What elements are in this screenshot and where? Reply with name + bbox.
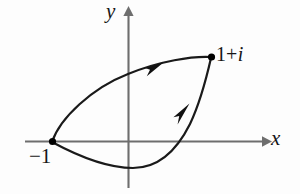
y-axis-label: y (106, 1, 115, 22)
y-axis (123, 6, 133, 188)
start-point-label: −1 (29, 146, 51, 167)
x-axis-label: x (271, 128, 280, 149)
end-point-label-real: 1+ (216, 43, 237, 65)
lower-contour-path (52, 58, 211, 168)
lower-contour-direction-arrow-icon (173, 104, 189, 125)
end-point-label: 1+i (216, 44, 243, 64)
complex-plane-figure: y x 1+i −1 (0, 0, 300, 194)
end-point-label-imaginary: i (237, 43, 243, 65)
end-point-dot (208, 53, 215, 60)
y-axis-arrow-icon (123, 6, 133, 16)
x-axis (25, 136, 272, 147)
